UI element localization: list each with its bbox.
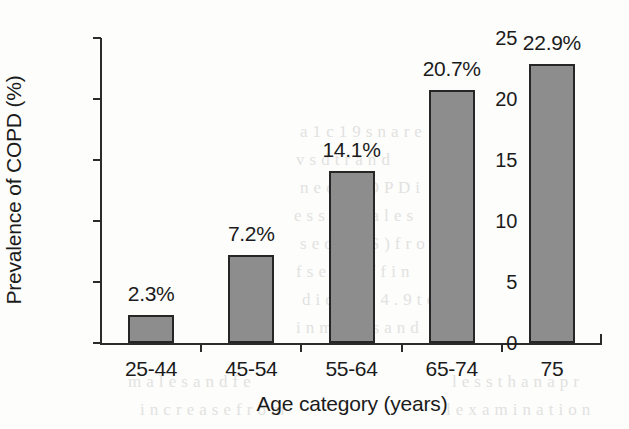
y-tick-label: 5 xyxy=(506,271,517,294)
y-tick-mark xyxy=(93,37,101,39)
x-tick-mark xyxy=(200,343,202,352)
y-tick-mark xyxy=(93,159,101,161)
bar[interactable] xyxy=(529,64,575,343)
y-tick-label: 0 xyxy=(506,332,517,355)
y-tick-mark xyxy=(93,342,101,344)
y-tick-mark xyxy=(93,220,101,222)
y-tick-label: 25 xyxy=(495,27,517,50)
plot-area xyxy=(101,38,602,343)
y-axis-title: Prevalence of COPD (%) xyxy=(2,75,26,304)
y-tick-label: 10 xyxy=(495,210,517,233)
x-tick-mark xyxy=(300,343,302,352)
bar-value-label: 14.1% xyxy=(322,138,380,162)
x-tick-mark xyxy=(401,343,403,352)
bar[interactable] xyxy=(128,315,174,343)
y-tick-label: 20 xyxy=(495,88,517,111)
bar-value-label: 2.3% xyxy=(128,282,175,306)
x-axis-title: Age category (years) xyxy=(257,392,448,416)
bar-value-label: 7.2% xyxy=(228,222,275,246)
y-tick-mark xyxy=(93,98,101,100)
bar[interactable] xyxy=(228,255,274,343)
x-tick-label: 75 xyxy=(541,357,564,381)
bar-value-label: 22.9% xyxy=(523,31,581,55)
x-tick-label: 45-54 xyxy=(225,357,277,381)
x-tick-mark xyxy=(501,343,503,352)
x-tick-label: 65-74 xyxy=(426,357,478,381)
x-tick-label: 25-44 xyxy=(125,357,177,381)
y-tick-label: 15 xyxy=(495,149,517,172)
x-axis-line xyxy=(100,343,602,345)
bleed-text-line: l e x a m i n a t i o n xyxy=(446,400,591,420)
bar[interactable] xyxy=(329,171,375,343)
chart-figure: a 1 c 1 9 s n a r e v s d t r a n d n e … xyxy=(0,0,629,429)
bar-value-label: 20.7% xyxy=(423,57,481,81)
x-tick-label: 55-64 xyxy=(325,357,377,381)
bar[interactable] xyxy=(429,90,475,343)
y-tick-mark xyxy=(93,281,101,283)
